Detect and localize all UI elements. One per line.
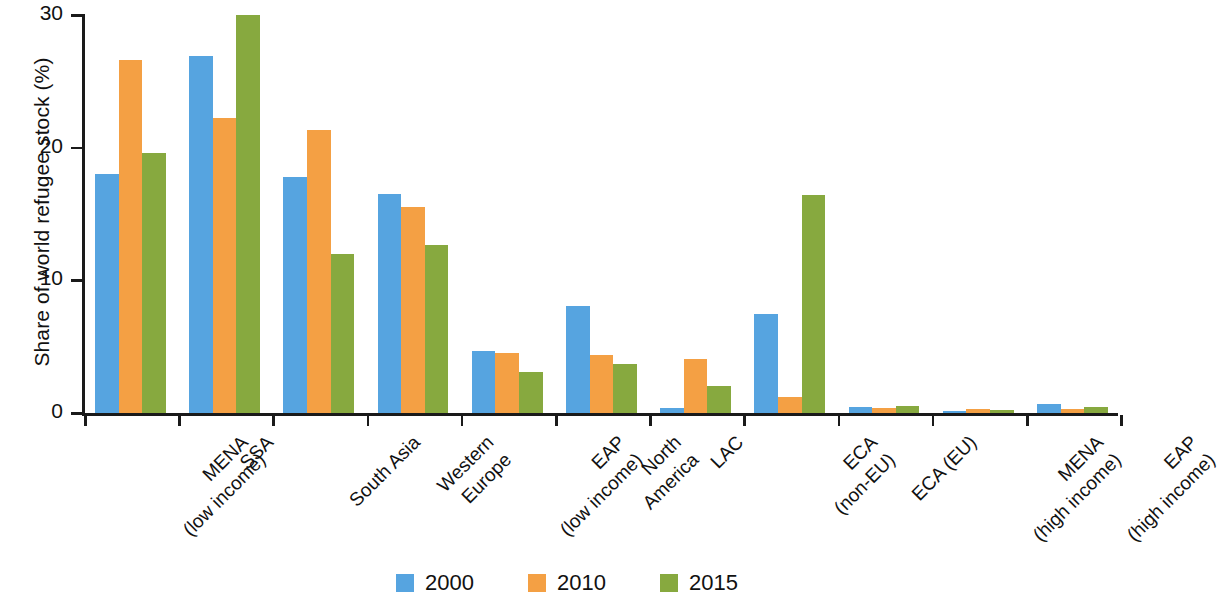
bar-2000-2: [283, 177, 307, 413]
bar-2015-0: [142, 153, 166, 413]
y-axis-tick: 20: [71, 147, 82, 150]
bar-2010-6: [684, 359, 708, 413]
bar-2000-0: [95, 174, 119, 413]
x-axis-tick: [838, 415, 841, 426]
legend-swatch-icon: [396, 574, 414, 592]
x-axis-label-9: MENA(high income): [1010, 430, 1127, 547]
bar-2010-3: [401, 207, 425, 413]
y-axis-tick-label: 20: [40, 134, 63, 158]
bar-2000-3: [378, 194, 402, 413]
x-axis-label-line1: LAC: [706, 431, 747, 472]
x-axis-tick: [932, 415, 935, 426]
x-axis-tick: [1026, 415, 1029, 426]
bar-2015-4: [519, 372, 543, 413]
legend-label: 2015: [689, 570, 738, 596]
x-axis-tick: [272, 415, 275, 426]
bar-2010-2: [307, 130, 331, 413]
x-axis-tick: [1120, 415, 1123, 426]
y-axis-tick-label: 30: [40, 1, 63, 25]
chart-legend: 200020102015: [0, 570, 1134, 596]
x-axis-tick: [178, 415, 181, 426]
x-axis-tick: [649, 415, 652, 426]
bar-2015-5: [613, 364, 637, 413]
bar-2010-1: [213, 118, 237, 413]
x-axis-tick: [555, 415, 558, 426]
bar-2010-0: [119, 60, 143, 413]
bar-2000-5: [566, 306, 590, 413]
y-axis-tick: 10: [71, 279, 82, 282]
bar-2000-8: [849, 407, 873, 413]
x-axis-label-10: EAP(high income): [1104, 430, 1221, 547]
x-axis-label-line1: South Asia: [345, 431, 424, 510]
y-axis-tick-label: 10: [40, 266, 63, 290]
x-axis-label-3: WesternEurope: [432, 430, 517, 515]
legend-item-2000[interactable]: 2000: [396, 570, 474, 596]
legend-item-2010[interactable]: 2010: [528, 570, 606, 596]
y-axis-tick: 30: [71, 14, 82, 17]
x-axis-tick: [367, 415, 370, 426]
bar-2015-3: [425, 245, 449, 413]
plot-area: 0102030: [82, 14, 1118, 415]
bar-2015-6: [707, 386, 731, 413]
bar-2010-10: [1061, 409, 1085, 413]
x-axis-label-2: South Asia: [343, 430, 425, 512]
y-axis-tick: 0: [71, 412, 82, 415]
bar-2010-4: [495, 353, 519, 413]
bar-2000-9: [943, 411, 967, 413]
legend-item-2015[interactable]: 2015: [660, 570, 738, 596]
legend-label: 2010: [557, 570, 606, 596]
y-axis-line: [82, 14, 85, 415]
bar-2015-7: [802, 195, 826, 413]
bar-2010-7: [778, 397, 802, 413]
bar-2015-9: [990, 410, 1014, 413]
bar-2010-9: [966, 409, 990, 413]
x-axis-label-8: ECA (EU): [906, 430, 982, 506]
bar-2000-7: [754, 314, 778, 413]
x-axis-tick: [461, 415, 464, 426]
bar-2000-4: [472, 351, 496, 413]
x-axis-label-line1: ECA (EU): [908, 431, 981, 504]
bar-2000-1: [189, 56, 213, 413]
x-axis-line: [82, 413, 1118, 416]
bar-2015-1: [236, 15, 260, 413]
y-axis-tick-label: 0: [51, 399, 63, 423]
x-axis-tick: [743, 415, 746, 426]
bar-2010-5: [590, 355, 614, 413]
y-axis-title: Share of world refugee stock (%): [30, 2, 54, 422]
bar-2000-6: [660, 408, 684, 413]
x-axis-label-6: LAC: [704, 430, 748, 474]
x-axis-tick: [84, 415, 87, 426]
bar-2015-2: [331, 254, 355, 413]
x-axis-label-5: NorthAmerica: [620, 430, 705, 515]
legend-swatch-icon: [660, 574, 678, 592]
bar-2015-8: [896, 406, 920, 413]
bar-2010-8: [872, 408, 896, 413]
legend-swatch-icon: [528, 574, 546, 592]
bar-2000-10: [1037, 404, 1061, 413]
x-axis-label-7: ECA(non-EU): [810, 430, 900, 520]
bar-2015-10: [1084, 407, 1108, 413]
legend-label: 2000: [425, 570, 474, 596]
